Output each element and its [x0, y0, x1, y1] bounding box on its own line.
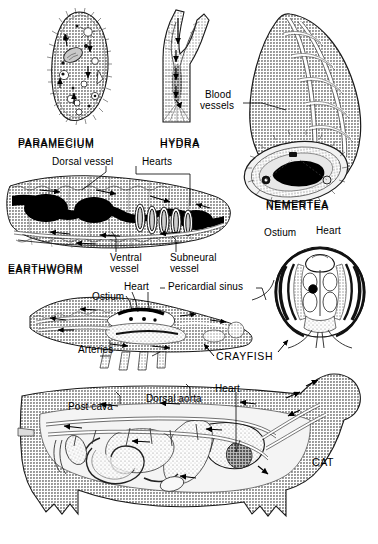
dorsal-aorta-label: Dorsal aorta	[146, 394, 202, 405]
heart-label-cat: Heart	[215, 384, 240, 395]
heart-label-section: Heart	[316, 226, 341, 237]
ostium-label: Ostium	[92, 292, 124, 303]
dorsal-vessel-bulge-2	[74, 197, 114, 223]
dorsal-vessel-bulge-1	[24, 194, 68, 222]
cavity-shading	[172, 64, 182, 104]
blood-vessels-label-line2: vessels	[200, 101, 234, 112]
crayfish-cross-section	[275, 247, 365, 348]
dorsal-vessel-label: Dorsal vessel	[52, 157, 113, 168]
crayfish-caption-text: CRAYFISH	[216, 350, 273, 362]
cat-caption-text: CAT	[312, 456, 334, 468]
ostium-opening-2	[142, 317, 146, 321]
pericardial-sinus-label: Pericardial sinus	[168, 282, 243, 293]
nemertea-caption-text: NEMERTEA	[266, 200, 329, 212]
ostium-label-section: Ostium	[264, 228, 296, 239]
earthworm-caption-text: EARTHWORM	[8, 264, 83, 276]
hearts-label: Hearts	[142, 157, 172, 168]
paramecium-caption-text: PARAMECIUM	[18, 138, 94, 150]
post-cava-label: Post cava	[68, 402, 113, 413]
subneural-vessel-label-line2: vessel	[170, 264, 199, 275]
dorsal-vessel-section	[289, 152, 297, 157]
ventral-vessel-label-line2: vessel	[110, 264, 139, 275]
ventral-vessel-label-line1: Ventral	[110, 253, 142, 264]
abdominal-segment	[228, 322, 244, 338]
digestive-gland	[203, 330, 225, 342]
cross-section-arrow	[278, 340, 288, 352]
heart-label-crayfish: Heart	[124, 282, 149, 293]
nemertea-illustration	[240, 14, 360, 209]
dorsal-vessel-section-crayfish	[309, 285, 317, 293]
paramecium-illustration	[47, 8, 112, 125]
subneural-vessel-label-line1: Subneural	[170, 253, 217, 264]
ostium-opening-1	[129, 317, 133, 321]
arteries-label: Arteries	[78, 345, 113, 356]
earthworm-illustration	[7, 176, 231, 248]
blood-vessels-label-line1: Blood	[205, 90, 231, 101]
hydra-caption-text: HYDRA	[160, 138, 200, 150]
ostium-opening-3	[153, 318, 156, 321]
cross-section-heart	[306, 255, 335, 273]
